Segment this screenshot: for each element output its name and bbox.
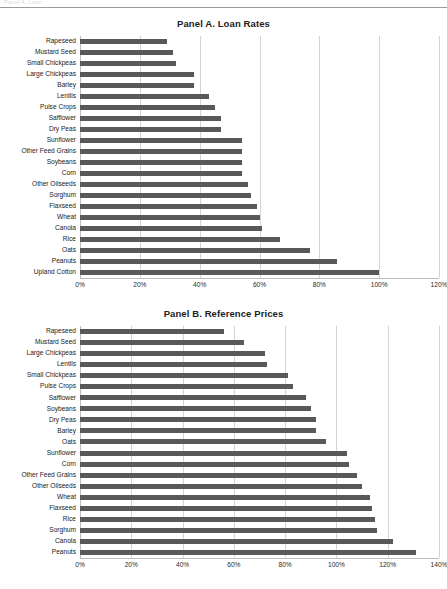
bar-row[interactable]: Oats xyxy=(80,245,439,256)
bar[interactable] xyxy=(80,462,349,467)
bar[interactable] xyxy=(80,506,372,511)
bar[interactable] xyxy=(80,50,173,55)
bar-row[interactable]: Other Feed Grains xyxy=(80,470,439,481)
bar[interactable] xyxy=(80,259,337,264)
bar-row[interactable]: Soybeans xyxy=(80,403,439,414)
bar-row[interactable]: Corn xyxy=(80,168,439,179)
bar[interactable] xyxy=(80,362,267,367)
bar-row[interactable]: Rapeseed xyxy=(80,36,439,47)
bar[interactable] xyxy=(80,248,310,253)
bar[interactable] xyxy=(80,340,244,345)
bar[interactable] xyxy=(80,149,242,154)
bar[interactable] xyxy=(80,105,215,110)
category-label: Soybeans xyxy=(0,159,80,166)
bar-row[interactable]: Oats xyxy=(80,436,439,447)
bar[interactable] xyxy=(80,428,316,433)
category-label: Flaxseed xyxy=(0,203,80,210)
bar[interactable] xyxy=(80,439,326,444)
bar-row[interactable]: Safflower xyxy=(80,113,439,124)
bar[interactable] xyxy=(80,182,248,187)
bar[interactable] xyxy=(80,127,221,132)
bar-row[interactable]: Flaxseed xyxy=(80,503,439,514)
category-label: Sunflower xyxy=(0,137,80,144)
bar-row[interactable]: Sunflower xyxy=(80,448,439,459)
bar-row[interactable]: Other Oilseeds xyxy=(80,179,439,190)
category-label: Large Chickpeas xyxy=(0,71,80,78)
bar[interactable] xyxy=(80,237,280,242)
bar[interactable] xyxy=(80,473,357,478)
bar[interactable] xyxy=(80,484,362,489)
bar-row[interactable]: Dry Peas xyxy=(80,124,439,135)
bar-row[interactable]: Mustard Seed xyxy=(80,337,439,348)
bar[interactable] xyxy=(80,83,194,88)
bar-row[interactable]: Lentils xyxy=(80,359,439,370)
bar-row[interactable]: Barley xyxy=(80,80,439,91)
bar[interactable] xyxy=(80,539,393,544)
bar-row[interactable]: Sorghum xyxy=(80,190,439,201)
bar[interactable] xyxy=(80,550,416,555)
bar[interactable] xyxy=(80,61,176,66)
x-axis-tick-label: 100% xyxy=(371,282,388,289)
bar-row[interactable]: Flaxseed xyxy=(80,201,439,212)
bar[interactable] xyxy=(80,406,311,411)
bar-row[interactable]: Rice xyxy=(80,514,439,525)
bar-row[interactable]: Sunflower xyxy=(80,135,439,146)
bar-row[interactable]: Pulse Crops xyxy=(80,102,439,113)
bar-row[interactable]: Soybeans xyxy=(80,157,439,168)
bar[interactable] xyxy=(80,138,242,143)
bar-row[interactable]: Canola xyxy=(80,223,439,234)
bar-row[interactable]: Small Chickpeas xyxy=(80,370,439,381)
bar-row[interactable]: Other Oilseeds xyxy=(80,481,439,492)
bar-row[interactable]: Large Chickpeas xyxy=(80,348,439,359)
bar[interactable] xyxy=(80,72,194,77)
plot-area: RapeseedMustard SeedSmall ChickpeasLarge… xyxy=(80,36,439,278)
bar-row[interactable]: Pulse Crops xyxy=(80,381,439,392)
bar[interactable] xyxy=(80,94,209,99)
category-label: Oats xyxy=(0,439,80,446)
bar[interactable] xyxy=(80,495,370,500)
bar-row[interactable]: Lentils xyxy=(80,91,439,102)
axis-baseline xyxy=(80,278,439,279)
bar[interactable] xyxy=(80,384,293,389)
bar-row[interactable]: Barley xyxy=(80,425,439,436)
bar-row[interactable]: Dry Peas xyxy=(80,414,439,425)
bar-row[interactable]: Rice xyxy=(80,234,439,245)
bar[interactable] xyxy=(80,417,316,422)
bar-row[interactable]: Canola xyxy=(80,536,439,547)
bar[interactable] xyxy=(80,528,377,533)
bar[interactable] xyxy=(80,171,242,176)
bar[interactable] xyxy=(80,160,242,165)
bar[interactable] xyxy=(80,373,288,378)
bar-row[interactable]: Mustard Seed xyxy=(80,47,439,58)
bar-row[interactable]: Safflower xyxy=(80,392,439,403)
bar[interactable] xyxy=(80,517,375,522)
bar[interactable] xyxy=(80,351,265,356)
bar-row[interactable]: Small Chickpeas xyxy=(80,58,439,69)
bar[interactable] xyxy=(80,451,347,456)
bar[interactable] xyxy=(80,226,262,231)
bar-row[interactable]: Upland Cotton xyxy=(80,267,439,278)
bar[interactable] xyxy=(80,204,257,209)
bar-row[interactable]: Peanuts xyxy=(80,256,439,267)
bar-row[interactable]: Corn xyxy=(80,459,439,470)
category-label: Large Chickpeas xyxy=(0,350,80,357)
bar-row[interactable]: Rapeseed xyxy=(80,326,439,337)
bar[interactable] xyxy=(80,193,251,198)
gridline xyxy=(439,326,440,558)
bar-row[interactable]: Sorghum xyxy=(80,525,439,536)
bar[interactable] xyxy=(80,215,260,220)
category-label: Soybeans xyxy=(0,406,80,413)
bar[interactable] xyxy=(80,395,306,400)
bar[interactable] xyxy=(80,270,379,275)
bar-row[interactable]: Peanuts xyxy=(80,547,439,558)
x-axis-tick-label: 20% xyxy=(133,282,146,289)
bar[interactable] xyxy=(80,116,221,121)
category-label: Other Feed Grains xyxy=(0,148,80,155)
bar[interactable] xyxy=(80,329,224,334)
bar-row[interactable]: Wheat xyxy=(80,492,439,503)
bar-row[interactable]: Other Feed Grains xyxy=(80,146,439,157)
bar-row[interactable]: Large Chickpeas xyxy=(80,69,439,80)
category-label: Peanuts xyxy=(0,549,80,556)
bar-row[interactable]: Wheat xyxy=(80,212,439,223)
bar[interactable] xyxy=(80,39,167,44)
